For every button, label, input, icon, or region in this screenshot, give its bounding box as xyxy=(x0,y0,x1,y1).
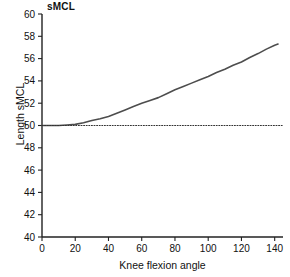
x-axis-ticks: 020406080100120140 xyxy=(39,237,283,254)
y-tick-label: 54 xyxy=(24,75,36,86)
y-tick-label: 56 xyxy=(24,53,36,64)
y-tick-label: 44 xyxy=(24,187,36,198)
y-tick-label: 52 xyxy=(24,98,36,109)
y-tick-label: 40 xyxy=(24,232,36,243)
y-tick-label: 60 xyxy=(24,9,36,20)
x-tick-label: 40 xyxy=(103,243,115,254)
data-series-group xyxy=(42,44,283,125)
x-tick-label: 80 xyxy=(169,243,181,254)
y-tick-label: 48 xyxy=(24,142,36,153)
x-tick-label: 120 xyxy=(233,243,250,254)
y-tick-label: 50 xyxy=(24,120,36,131)
x-tick-label: 20 xyxy=(70,243,82,254)
x-tick-label: 100 xyxy=(200,243,217,254)
y-axis-ticks: 4042444648505254565860 xyxy=(24,9,42,243)
data-line xyxy=(42,44,278,125)
y-tick-label: 46 xyxy=(24,165,36,176)
x-tick-label: 140 xyxy=(266,243,283,254)
x-tick-label: 0 xyxy=(39,243,45,254)
y-tick-label: 58 xyxy=(24,31,36,42)
x-tick-label: 60 xyxy=(136,243,148,254)
y-tick-label: 42 xyxy=(24,209,36,220)
plot-area: 4042444648505254565860 02040608010012014… xyxy=(0,0,290,277)
chart-figure: sMCL Length sMCL Knee flexion angle 4042… xyxy=(0,0,290,277)
